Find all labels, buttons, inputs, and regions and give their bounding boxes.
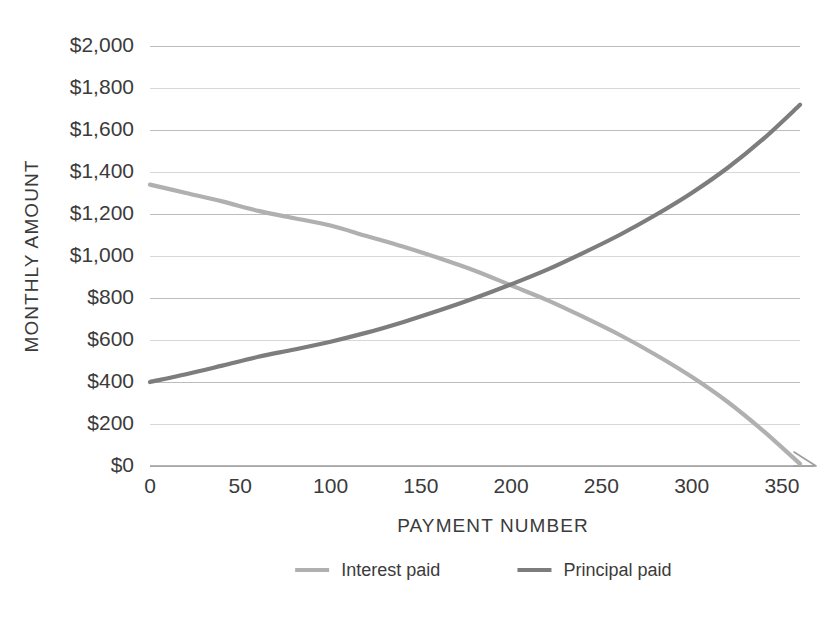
x-tick-label: 300 — [674, 474, 709, 497]
amortization-chart: $0$200$400$600$800$1,000$1,200$1,400$1,6… — [0, 0, 836, 617]
x-tick-label: 250 — [584, 474, 619, 497]
data-series — [150, 105, 800, 464]
y-tick-label: $1,400 — [70, 159, 134, 182]
y-tick-label: $2,000 — [70, 33, 134, 56]
x-tick-label: 200 — [494, 474, 529, 497]
y-tick-label: $1,800 — [70, 75, 134, 98]
legend-label: Principal paid — [563, 560, 671, 580]
y-tick-label: $400 — [87, 369, 134, 392]
x-tick-label: 0 — [144, 474, 156, 497]
x-tick-label: 100 — [313, 474, 348, 497]
x-axis-tick-labels: 050100150200250300350 — [144, 474, 799, 497]
y-tick-label: $1,200 — [70, 201, 134, 224]
y-tick-label: $200 — [87, 411, 134, 434]
x-tick-label: 150 — [403, 474, 438, 497]
x-axis-title: PAYMENT NUMBER — [397, 515, 589, 536]
y-tick-label: $0 — [111, 453, 134, 476]
y-tick-label: $1,000 — [70, 243, 134, 266]
y-axis-tick-labels: $0$200$400$600$800$1,000$1,200$1,400$1,6… — [70, 33, 134, 476]
x-tick-label: 350 — [764, 474, 799, 497]
chart-legend: Interest paidPrincipal paid — [295, 560, 671, 580]
y-tick-label: $800 — [87, 285, 134, 308]
y-axis-title: MONTHLY AMOUNT — [21, 159, 42, 352]
x-axis — [150, 452, 816, 466]
series-line-interest-paid — [150, 185, 800, 464]
y-tick-label: $600 — [87, 327, 134, 350]
legend-label: Interest paid — [341, 560, 440, 580]
gridlines — [150, 46, 800, 466]
x-tick-label: 50 — [229, 474, 252, 497]
chart-canvas: $0$200$400$600$800$1,000$1,200$1,400$1,6… — [0, 0, 836, 617]
y-tick-label: $1,600 — [70, 117, 134, 140]
